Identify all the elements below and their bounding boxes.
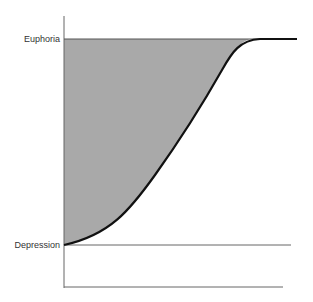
diagram-canvas [0, 0, 313, 302]
mood-diagram: Euphoria Depression [0, 0, 313, 302]
euphoria-label: Euphoria [0, 34, 60, 44]
depression-label: Depression [0, 240, 60, 250]
